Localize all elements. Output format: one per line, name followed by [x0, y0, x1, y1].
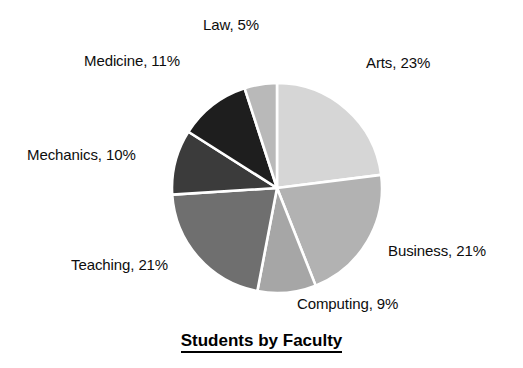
pie-chart-figure	[0, 0, 523, 368]
pie-chart-page: Law, 5% Arts, 23% Medicine, 11% Mechanic…	[0, 0, 523, 368]
pie-slice-arts[interactable]	[277, 83, 381, 188]
pie-label-arts: Arts, 23%	[366, 54, 430, 71]
pie-label-mechanics: Mechanics, 10%	[27, 146, 136, 163]
pie-label-medicine: Medicine, 11%	[84, 52, 180, 69]
pie-chart-svg	[0, 0, 523, 368]
pie-label-law: Law, 5%	[203, 16, 259, 33]
chart-title-text: Students by Faculty	[181, 331, 343, 353]
pie-label-computing: Computing, 9%	[297, 295, 398, 312]
pie-slice-teaching[interactable]	[172, 188, 277, 291]
chart-title: Students by Faculty	[0, 331, 523, 351]
pie-label-teaching: Teaching, 21%	[71, 256, 168, 273]
pie-slice-group	[172, 83, 382, 293]
pie-label-business: Business, 21%	[388, 242, 486, 259]
